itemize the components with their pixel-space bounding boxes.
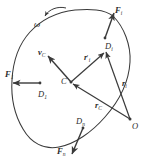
- point-di-dot: [104, 37, 107, 40]
- point-d1-dot: [39, 82, 42, 85]
- rigid-body-force-diagram: ω Fi Di F1 D1 vC r′i C rC ri O Dn Fn: [0, 0, 149, 162]
- point-o-label: O: [132, 122, 138, 131]
- velocity-c-vector: [48, 56, 71, 82]
- point-c-dot: [70, 81, 73, 84]
- radius-c-label: rC: [95, 101, 102, 110]
- radius-i-label: ri: [122, 79, 127, 88]
- force-i-label: Fi: [115, 6, 122, 15]
- point-dn-dot: [82, 127, 85, 130]
- rigid-body-outline: [12, 10, 130, 148]
- force-i-vector: [105, 13, 114, 38]
- velocity-c-label: vC: [38, 48, 46, 57]
- force-n-label: Fn: [57, 147, 65, 156]
- angular-velocity-label: ω: [34, 21, 40, 29]
- force-1-label: F1: [5, 70, 13, 79]
- point-dn-label: Dn: [76, 117, 85, 126]
- force-n-vector: [72, 128, 83, 154]
- point-c-label: C: [61, 77, 67, 86]
- point-di-label: Di: [105, 42, 113, 51]
- radius-prime-i-label: r′i: [84, 53, 90, 62]
- point-d1-label: D1: [38, 90, 47, 99]
